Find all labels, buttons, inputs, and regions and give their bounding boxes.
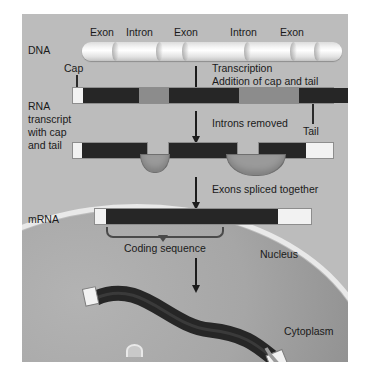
step-exons-spliced-label: Exons spliced together [212,183,318,196]
dna-strand [82,42,342,61]
dna-seam [156,42,163,61]
dna-label-intron-2: Intron [230,26,257,39]
dna-label-exon-2: Exon [174,26,198,39]
spliced-cap-segment [73,143,82,158]
step-transcription-line-1: Transcription [212,62,272,75]
dna-seam [112,42,119,61]
nucleus-label: Nucleus [260,248,298,261]
row-label-dna: DNA [28,44,50,57]
dna-label-intron-1: Intron [126,26,153,39]
spliced-exon-1 [72,142,148,159]
transcript-exon-3 [299,88,348,103]
rna-transcript-bar [72,87,334,104]
callout-coding-sequence-label: Coding sequence [124,242,206,255]
mrna-ribbon-body [96,293,278,362]
dna-seam [314,42,321,61]
transcript-intron-1 [139,88,169,103]
introns-removed-arrow [195,111,197,137]
dna-label-exon-3: Exon [280,26,304,39]
mrna-tail-segment [278,209,311,224]
callout-tail-leader [312,104,314,124]
mrna-bar [94,208,312,225]
dna-label-exon-1: Exon [90,26,114,39]
coding-sequence-bracket-tick [158,235,168,242]
callout-tail-label: Tail [303,125,319,138]
spliced-tail-segment [306,143,333,158]
transcript-intron-2 [239,88,299,103]
dna-seam [290,42,297,61]
step-introns-removed-label: Introns removed [212,117,288,130]
rna-processing-figure: DNA Exon Intron Exon Intron Exon Transcr… [0,0,366,386]
mrna-ribbon-cap [82,287,98,306]
transcript-cap-segment [73,88,83,103]
transcript-exon-1 [83,88,139,103]
row-label-rna-line-1: RNA [28,100,50,113]
mrna-export-direction-arrow [260,344,320,362]
exons-spliced-arrow [195,177,197,203]
row-label-rna-line-2: transcript [28,113,71,126]
dna-seam [182,42,189,61]
export-arrow-curve [266,348,304,362]
callout-cap-label: Cap [64,62,83,75]
row-label-mrna: mRNA [28,213,59,226]
diagram-panel: DNA Exon Intron Exon Intron Exon Transcr… [22,14,348,362]
mrna-cap-segment [95,209,106,224]
mrna-coding-region [106,209,278,224]
row-label-rna-line-4: and tail [28,139,62,152]
dna-seam [244,42,251,61]
row-label-rna-line-3: with cap [28,126,67,139]
transcript-exon-2 [169,88,239,103]
